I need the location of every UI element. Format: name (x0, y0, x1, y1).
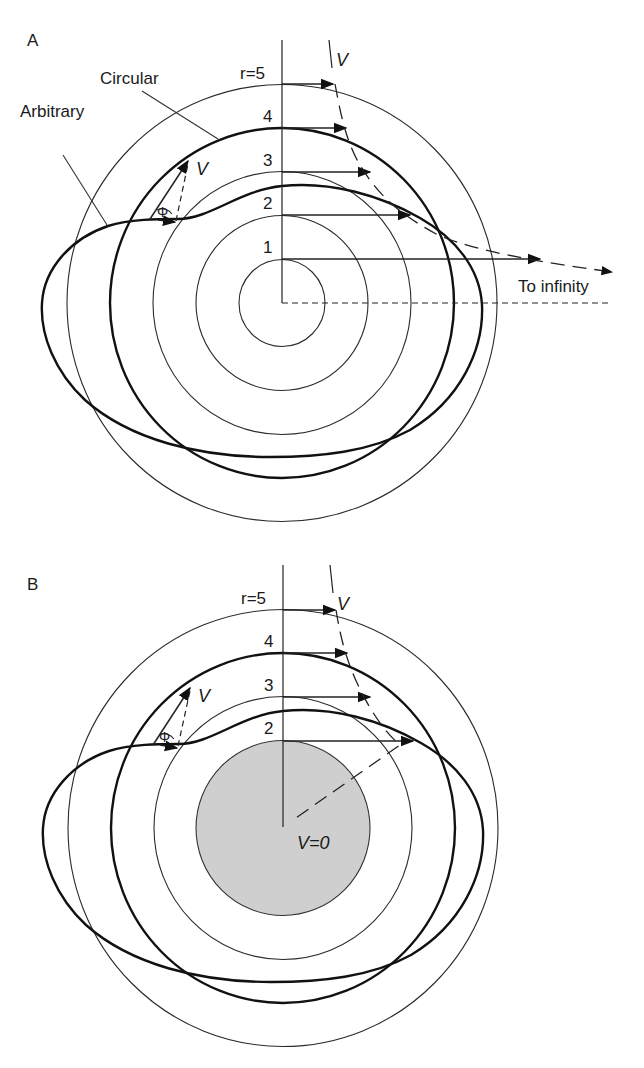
radius-label-r5-b: r=5 (241, 589, 266, 608)
path-tangent-arrow-a (158, 220, 175, 222)
radius-label-r4: 4 (263, 107, 272, 126)
arbitrary-path-a (42, 185, 482, 457)
panel-a: A r=5 4 3 2 1 (20, 31, 612, 522)
path-tangent-arrow-b (160, 745, 177, 748)
potential-flow-diagram: A r=5 4 3 2 1 (0, 0, 644, 1068)
arbitrary-label: Arbitrary (20, 102, 85, 121)
radius-labels-a: r=5 4 3 2 1 (240, 64, 272, 257)
velocity-arrows-b (283, 610, 413, 741)
velocity-vector-detail-a: Φ V (150, 159, 210, 222)
velocity-symbol-top-a: V (336, 50, 350, 70)
circular-label: Circular (100, 69, 159, 88)
panel-b-label: B (27, 575, 38, 594)
velocity-symbol-a: V (196, 159, 210, 179)
radius-label-r1: 1 (263, 238, 272, 257)
velocity-symbol-b: V (198, 686, 212, 706)
panel-b: B r=5 4 3 2 V Φ (27, 565, 498, 1047)
velocity-envelope-dashed-a (335, 84, 612, 272)
velocity-symbol-top-b: V (337, 594, 351, 614)
angle-symbol-a: Φ (157, 204, 168, 220)
radius-label-r4-b: 4 (264, 632, 273, 651)
zero-velocity-label: V=0 (297, 833, 330, 853)
radius-label-r3: 3 (263, 151, 272, 170)
radius-label-r2: 2 (263, 194, 272, 213)
to-infinity-label: To infinity (518, 277, 589, 296)
velocity-component-dashed-b (178, 691, 190, 746)
velocity-component-dashed-a (176, 164, 188, 221)
velocity-envelope-tick-a (329, 40, 332, 68)
angle-symbol-b: Φ (159, 729, 170, 745)
velocity-envelope-tick-b (330, 565, 333, 593)
panel-a-label: A (27, 31, 39, 50)
radius-label-r3-b: 3 (264, 676, 273, 695)
radius-label-r2-b: 2 (264, 719, 273, 738)
velocity-arrows-a (282, 84, 540, 259)
radius-label-r5: r=5 (240, 64, 265, 83)
